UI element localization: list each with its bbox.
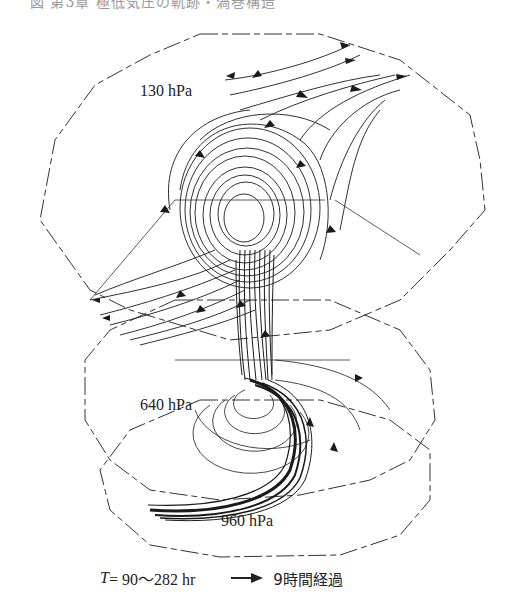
time-variable: T <box>100 569 109 587</box>
west-streaks <box>90 250 255 345</box>
outline-130hpa <box>40 34 485 340</box>
outline-960hpa <box>100 400 430 557</box>
level-label-130hpa: 130 hPa <box>140 82 192 100</box>
legend: T = 90～282 hr 9時間経過 <box>100 566 343 590</box>
level-outlines <box>40 34 485 557</box>
arrowheads <box>92 42 407 452</box>
arrow-meaning: 9時間経過 <box>273 568 343 589</box>
level-label-640hpa: 640 hPa <box>140 396 192 414</box>
outflow-streaks <box>225 45 410 230</box>
time-range: = 90～282 hr <box>109 566 195 590</box>
level-label-960hpa: 960 hPa <box>221 512 273 530</box>
arrow-icon <box>231 573 263 583</box>
